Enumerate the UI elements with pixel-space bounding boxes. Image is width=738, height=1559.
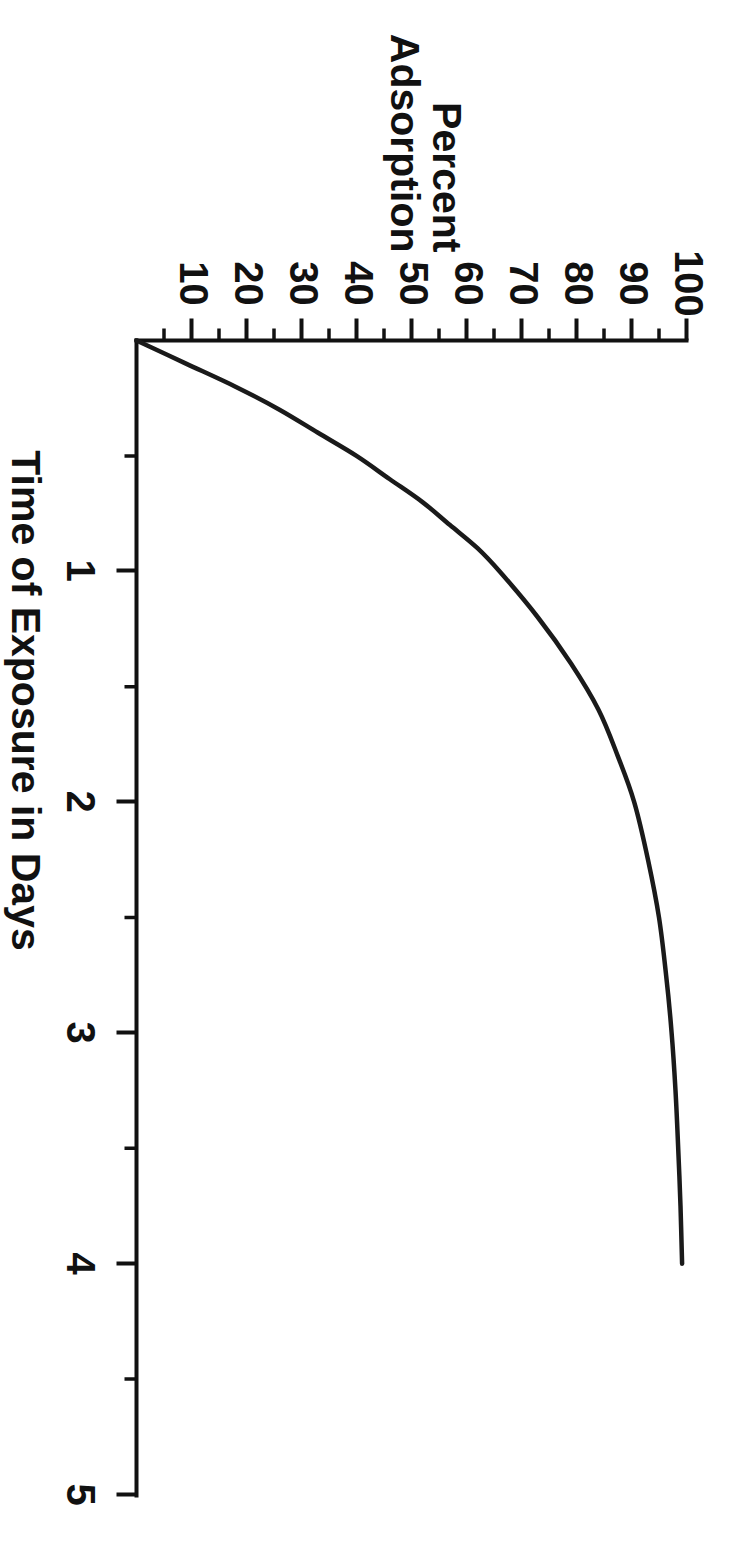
y-tick-label-40: 40 [335,261,380,306]
y-tick-label-80: 80 [555,261,600,306]
y-axis-title-line1: Percent [424,30,466,252]
y-tick-label-90: 90 [610,261,655,306]
y-tick-label-30: 30 [280,261,325,306]
x-axis-major-ticks [116,570,136,1494]
y-tick-label-70: 70 [500,261,545,306]
x-axis-title: Time of Exposure in Days [1,450,48,951]
x-tick-label-5: 5 [57,1483,102,1505]
chart-canvas [0,0,738,1559]
chart-stage: 1 2 3 4 5 10 20 30 40 50 60 70 80 90 100… [0,0,738,1559]
x-axis-minor-ticks [124,455,136,1378]
y-axis-title-line2: Adsorption [382,30,424,252]
x-tick-label-2: 2 [57,790,102,812]
y-tick-label-60: 60 [445,261,490,306]
y-tick-label-50: 50 [390,261,435,306]
plot-area: 1 2 3 4 5 10 20 30 40 50 60 70 80 90 100… [0,0,738,1559]
data-curve [136,340,682,1263]
y-tick-label-20: 20 [225,261,270,306]
y-tick-label-10: 10 [170,261,215,306]
x-tick-label-4: 4 [57,1252,102,1274]
figure-page: 1 2 3 4 5 10 20 30 40 50 60 70 80 90 100… [0,0,738,1559]
y-tick-label-100: 100 [665,250,710,317]
y-axis-title: Percent Adsorption [382,30,466,252]
x-tick-label-3: 3 [57,1021,102,1043]
x-tick-label-1: 1 [57,559,102,581]
